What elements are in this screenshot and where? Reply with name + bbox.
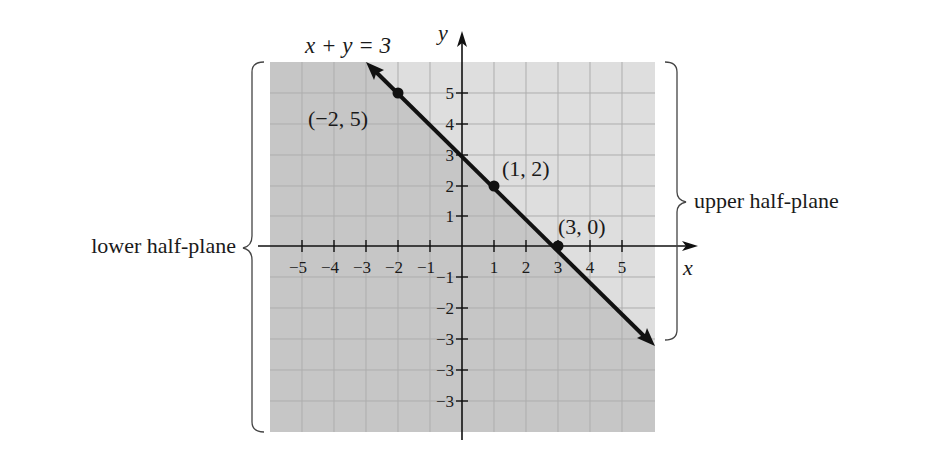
- svg-text:−3: −3: [353, 258, 371, 277]
- svg-text:4: 4: [446, 115, 455, 134]
- svg-text:4: 4: [586, 258, 595, 277]
- svg-text:(−2, 5): (−2, 5): [308, 106, 368, 131]
- half-plane-diagram: −5 −4 −3 −2 −1 1 2 3 4 5 1 2 3 4 5 −1 −2…: [0, 0, 928, 452]
- svg-text:3: 3: [554, 258, 563, 277]
- y-axis-label: y: [436, 20, 448, 45]
- svg-text:2: 2: [446, 177, 455, 196]
- svg-text:(1, 2): (1, 2): [502, 156, 550, 181]
- point-3-0: [553, 241, 564, 252]
- svg-text:−1: −1: [417, 258, 435, 277]
- svg-text:1: 1: [490, 258, 499, 277]
- svg-text:5: 5: [618, 258, 627, 277]
- svg-text:−1: −1: [436, 268, 454, 287]
- svg-text:−3: −3: [436, 361, 454, 380]
- upper-brace-icon: [665, 62, 686, 340]
- equation-label: x + y = 3: [304, 33, 391, 58]
- svg-text:−2: −2: [385, 258, 403, 277]
- svg-text:(3, 0): (3, 0): [558, 214, 606, 239]
- svg-text:1: 1: [446, 207, 455, 226]
- upper-half-plane-label: upper half-plane: [694, 188, 839, 213]
- svg-text:5: 5: [446, 84, 455, 103]
- svg-text:−3: −3: [436, 392, 454, 411]
- svg-text:−3: −3: [436, 330, 454, 349]
- lower-half-plane-label: lower half-plane: [91, 233, 236, 258]
- svg-text:−5: −5: [289, 258, 307, 277]
- svg-text:−4: −4: [321, 258, 340, 277]
- lower-brace-icon: [243, 62, 264, 432]
- point-1-2: [489, 181, 500, 192]
- svg-text:2: 2: [522, 258, 531, 277]
- point-neg2-5: [393, 88, 404, 99]
- svg-text:−2: −2: [436, 299, 454, 318]
- x-axis-label: x: [682, 255, 693, 280]
